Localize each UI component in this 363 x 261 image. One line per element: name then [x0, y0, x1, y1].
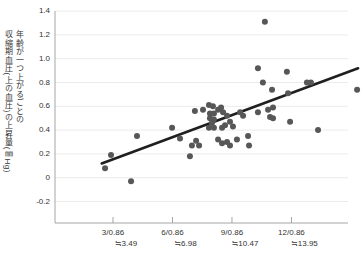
scatter-point — [240, 113, 246, 119]
scatter-point — [270, 115, 276, 121]
scatter-point — [219, 125, 225, 131]
scatter-point — [287, 119, 293, 125]
scatter-point — [270, 104, 276, 110]
scatter-point — [211, 125, 217, 131]
scatter-point — [315, 127, 321, 133]
scatter-point — [200, 107, 206, 113]
scatter-point — [230, 124, 236, 130]
scatter-point — [189, 143, 195, 149]
scatter-point — [260, 80, 266, 86]
scatter-point — [234, 137, 240, 143]
scatter-point — [269, 87, 275, 93]
scatter-point — [187, 153, 193, 159]
scatter-point — [245, 133, 251, 139]
scatter-point — [255, 65, 261, 71]
scatter-chart: 年齢が一つ上がるごとの 収縮期血圧(上の血圧)の上昇量(㎜Hg) 1.41.21… — [0, 0, 363, 261]
scatter-point — [210, 103, 216, 109]
scatter-point — [227, 143, 233, 149]
scatter-point — [134, 133, 140, 139]
scatter-point — [177, 135, 183, 141]
scatter-point — [192, 108, 198, 114]
scatter-point — [102, 165, 108, 171]
scatter-point — [246, 143, 252, 149]
scatter-point — [354, 87, 360, 93]
scatter-point — [262, 19, 268, 25]
scatter-point — [128, 178, 134, 184]
scatter-point — [108, 152, 114, 158]
scatter-point — [224, 113, 230, 119]
scatter-point — [169, 125, 175, 131]
scatter-point — [308, 80, 314, 86]
scatter-point — [196, 143, 202, 149]
scatter-point — [284, 69, 290, 75]
scatter-point — [255, 109, 261, 115]
plot-area — [0, 0, 363, 261]
scatter-point — [285, 90, 291, 96]
